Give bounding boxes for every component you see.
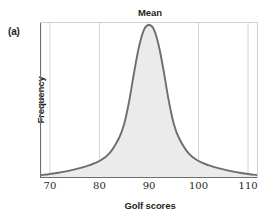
x-tick-label-70: 70 [44,180,57,191]
x-tick-label-110: 110 [239,180,258,191]
figure-panel-a: (a) Mean Frequency 708090100110 Golf sco… [0,0,270,222]
x-tick-label-100: 100 [189,180,208,191]
distribution-chart-svg [40,22,258,178]
x-tick-label-90: 90 [143,180,156,191]
plot-area [40,22,258,178]
distribution-area-fill [40,25,258,178]
x-tick-label-80: 80 [93,180,106,191]
panel-label: (a) [8,26,20,37]
x-axis-label: Golf scores [124,200,175,211]
chart-title-mean: Mean [138,7,162,18]
